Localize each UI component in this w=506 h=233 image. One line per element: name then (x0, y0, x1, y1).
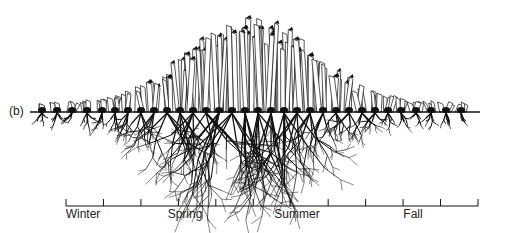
season-label-winter: Winter (66, 207, 101, 221)
shoots-layer (38, 15, 468, 113)
season-label-summer: Summer (274, 207, 319, 221)
season-timeline-axis (66, 199, 478, 206)
plant-growth-illustration (0, 0, 506, 233)
panel-label: (b) (9, 104, 24, 118)
season-label-spring: Spring (168, 207, 203, 221)
season-label-fall: Fall (403, 207, 422, 221)
